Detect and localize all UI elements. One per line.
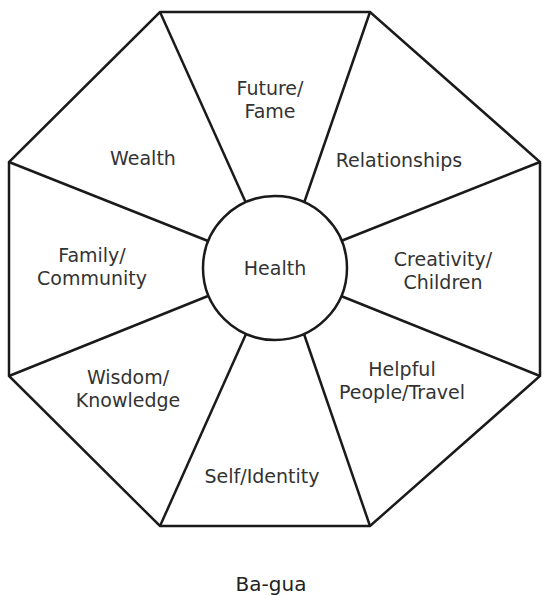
sector-line2: Fame: [237, 100, 304, 123]
sector-helpful-people-travel: Helpful People/Travel: [339, 358, 465, 404]
sector-line1: Wealth: [110, 147, 176, 170]
sector-line1: Wisdom/: [76, 366, 180, 389]
sector-future-fame: Future/ Fame: [237, 77, 304, 123]
sector-line1: Creativity/: [394, 248, 492, 271]
sector-line2: Community: [37, 267, 147, 290]
sector-line1: Future/: [237, 77, 304, 100]
sector-line1: Family/: [37, 244, 147, 267]
sector-wisdom-knowledge: Wisdom/ Knowledge: [76, 366, 180, 412]
sector-creativity-children: Creativity/ Children: [394, 248, 492, 294]
sector-line2: People/Travel: [339, 381, 465, 404]
sector-line2: Children: [394, 271, 492, 294]
sector-relationships: Relationships: [336, 149, 463, 172]
sector-self-identity: Self/Identity: [205, 465, 320, 488]
sector-line1: Relationships: [336, 149, 463, 172]
sector-line1: Helpful: [339, 358, 465, 381]
sector-wealth: Wealth: [110, 147, 176, 170]
sector-line1: Self/Identity: [205, 465, 320, 488]
caption: Ba-gua: [236, 572, 307, 596]
center-label: Health: [244, 257, 306, 280]
sector-line2: Knowledge: [76, 389, 180, 412]
sector-family-community: Family/ Community: [37, 244, 147, 290]
